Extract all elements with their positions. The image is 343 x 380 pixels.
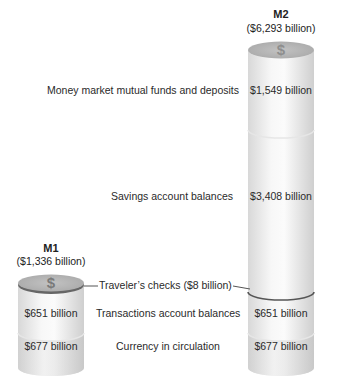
m2-money-market-value: $1,549 billion (244, 84, 318, 96)
m2-currency-value: $677 billion (244, 340, 318, 352)
label-savings: Savings account balances (111, 190, 233, 202)
m1-currency-value: $677 billion (14, 340, 88, 352)
travelers-connector-right (233, 286, 250, 289)
m1-dollar-icon: $ (41, 274, 61, 292)
label-currency: Currency in circulation (116, 340, 220, 352)
m1-title: M1 (11, 242, 91, 254)
m1-total: ($1,336 billion) (6, 255, 96, 267)
m2-transactions-value: $651 billion (244, 307, 318, 319)
label-travelers-checks: Traveler’s checks ($8 billion) (99, 279, 232, 291)
m2-savings-value: $3,408 billion (244, 190, 318, 202)
m2-total: ($6,293 billion) (236, 22, 326, 34)
label-transactions: Transactions account balances (96, 307, 240, 319)
m2-dollar-icon: $ (271, 41, 291, 59)
label-money-market: Money market mutual funds and deposits (47, 84, 239, 96)
m2-title: M2 (241, 8, 321, 20)
m1-transactions-value: $651 billion (14, 307, 88, 319)
